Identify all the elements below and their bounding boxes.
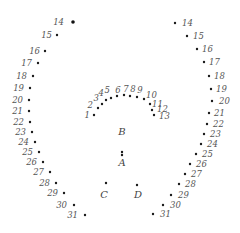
- right-label-21: 21: [213, 108, 225, 118]
- arc-label-8: 8: [130, 84, 136, 94]
- left-label-30: 30: [56, 200, 67, 210]
- arc-dot-3: [101, 103, 103, 105]
- arc-label-9: 9: [137, 85, 143, 95]
- right-dot-30: [162, 204, 164, 206]
- arc-dot-6: [116, 95, 118, 97]
- left-label-14: 14: [53, 17, 64, 27]
- left-label-22: 22: [12, 117, 24, 127]
- left-label-26: 26: [25, 157, 37, 167]
- left-dot-27: [49, 171, 51, 173]
- right-dot-24: [200, 143, 202, 145]
- right-dot-31: [152, 213, 154, 215]
- right-label-26: 26: [195, 159, 207, 169]
- right-label-25: 25: [201, 149, 213, 159]
- arc-label-7: 7: [123, 84, 129, 94]
- right-label-18: 18: [214, 71, 225, 81]
- left-label-27: 27: [32, 167, 44, 177]
- right-dot-26: [189, 163, 191, 165]
- left-label-17: 17: [21, 58, 32, 68]
- right-label-23: 23: [209, 129, 221, 139]
- left-label-23: 23: [14, 127, 26, 137]
- right-label-22: 22: [212, 119, 224, 129]
- right-label-14: 14: [182, 18, 193, 28]
- point-label-d: D: [133, 189, 142, 200]
- right-dot-16: [196, 48, 198, 50]
- left-label-16: 16: [29, 46, 40, 56]
- point-dot-d: [136, 184, 138, 186]
- right-label-20: 20: [218, 96, 230, 106]
- right-label-24: 24: [206, 139, 218, 149]
- arc-label-6: 6: [115, 85, 121, 95]
- left-dot-28: [55, 182, 57, 184]
- right-dot-29: [170, 194, 172, 196]
- right-label-16: 16: [202, 44, 213, 54]
- left-label-25: 25: [21, 147, 33, 157]
- left-label-29: 29: [46, 188, 58, 198]
- left-dot-29: [63, 192, 65, 194]
- left-dot-18: [32, 75, 34, 77]
- left-dot-24: [34, 141, 36, 143]
- arc-label-1: 1: [85, 110, 90, 120]
- arc-dot-10: [143, 98, 145, 100]
- left-dot-21: [28, 110, 30, 112]
- left-dot-19: [29, 87, 31, 89]
- arc-dot-11: [149, 103, 151, 105]
- right-label-30: 30: [170, 200, 181, 210]
- point-dot-a: [121, 151, 123, 153]
- left-label-20: 20: [11, 95, 23, 105]
- right-label-17: 17: [209, 57, 220, 67]
- arc-label-4: 4: [98, 88, 104, 98]
- left-dot-16: [44, 50, 46, 52]
- arc-dot-5: [110, 97, 112, 99]
- left-dot-23: [31, 131, 33, 133]
- right-dot-20: [211, 100, 213, 102]
- point-dot-c: [105, 182, 107, 184]
- left-label-31: 31: [67, 210, 78, 220]
- left-dot-26: [42, 161, 44, 163]
- right-dot-19: [210, 88, 212, 90]
- point-label-c: C: [100, 189, 108, 200]
- connect-the-dots-diagram: 1234567891011121314151617181920212223242…: [0, 0, 240, 233]
- left-label-24: 24: [17, 137, 29, 147]
- right-label-27: 27: [190, 169, 202, 179]
- right-label-19: 19: [216, 84, 227, 94]
- arc-dot-2: [97, 107, 99, 109]
- arc-dot-7: [123, 94, 125, 96]
- right-dot-23: [203, 133, 205, 135]
- point-label-a: A: [117, 157, 125, 168]
- left-dot-25: [38, 151, 40, 153]
- arc-dot-8: [129, 95, 131, 97]
- left-label-15: 15: [41, 30, 52, 40]
- left-dot-17: [37, 62, 39, 64]
- right-label-28: 28: [184, 179, 196, 189]
- left-dot-30: [73, 204, 75, 206]
- right-dot-25: [195, 153, 197, 155]
- right-label-15: 15: [193, 31, 204, 41]
- right-dot-27: [184, 173, 186, 175]
- right-label-29: 29: [177, 190, 189, 200]
- right-dot-15: [186, 35, 188, 37]
- arc-dot-13: [153, 114, 155, 116]
- left-dot-20: [28, 99, 30, 101]
- arc-dot-1: [93, 114, 95, 116]
- right-label-31: 31: [160, 209, 171, 219]
- arc-label-5: 5: [105, 85, 110, 95]
- right-dot-14: [174, 22, 176, 24]
- left-dot-15: [56, 34, 58, 36]
- right-dot-22: [206, 123, 208, 125]
- left-label-28: 28: [38, 178, 50, 188]
- right-dot-17: [203, 61, 205, 63]
- left-label-18: 18: [16, 71, 27, 81]
- arc-dot-4: [105, 99, 107, 101]
- point-label-b: B: [117, 126, 125, 137]
- point-dot-b: [121, 154, 123, 156]
- left-label-19: 19: [13, 83, 24, 93]
- arc-dot-9: [136, 96, 138, 98]
- arc-label-2: 2: [87, 100, 93, 110]
- left-dot-31: [84, 214, 86, 216]
- right-dot-18: [208, 75, 210, 77]
- arc-label-13: 13: [159, 111, 170, 121]
- right-dot-21: [208, 112, 210, 114]
- right-dot-28: [178, 183, 180, 185]
- left-dot-22: [29, 121, 31, 123]
